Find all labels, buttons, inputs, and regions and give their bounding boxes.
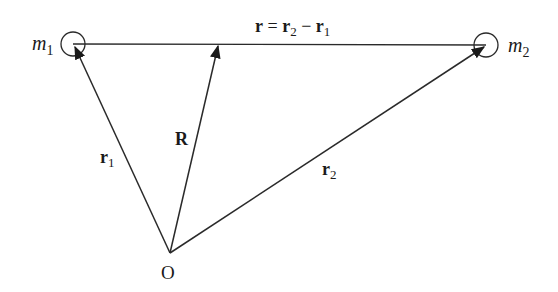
label-R: R [175, 129, 189, 149]
vector-r2-arrow [170, 47, 484, 253]
label-m2: m2 [508, 34, 529, 60]
vector-R-arrow [170, 46, 218, 253]
two-body-vector-diagram: m1 m2 r = r2 − r1 R r1 r2 O [0, 0, 558, 292]
label-relative-vector: r = r2 − r1 [255, 16, 330, 39]
vector-r1-arrow [75, 47, 170, 253]
label-origin: O [161, 262, 175, 283]
label-m1: m1 [32, 32, 53, 58]
label-r1: r1 [100, 147, 115, 170]
label-r2: r2 [322, 159, 337, 182]
separation-line [73, 44, 486, 45]
